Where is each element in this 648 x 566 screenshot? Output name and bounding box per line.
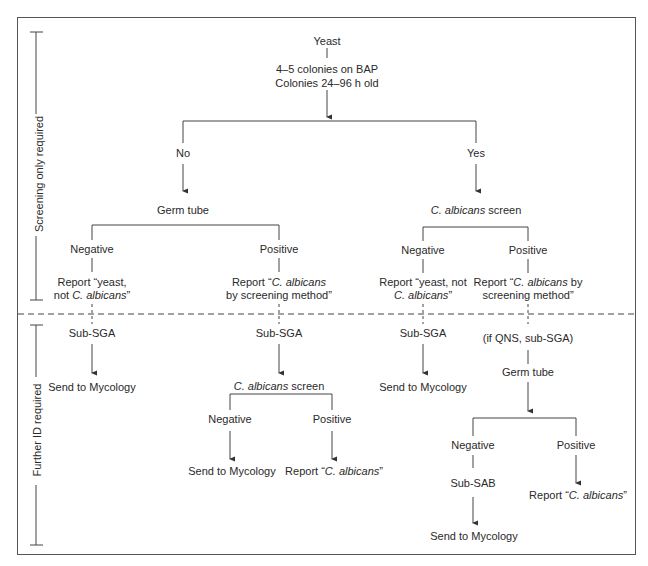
node-gt-positive: Positive: [260, 243, 299, 256]
node-mid-send-mycology: Send to Mycology: [188, 465, 275, 478]
node-ca-screen: C. albicans screen: [431, 204, 522, 217]
report-line-1: Report “C. albicans by: [474, 276, 583, 289]
report-line-1: Report “yeast, not: [379, 276, 466, 289]
node-ca-neg-report: Report “yeast, not C. albicans”: [379, 276, 466, 302]
node-if-qns: (if QNS, sub-SGA): [483, 332, 573, 345]
node-criteria-2: Colonies 24–96 h old: [275, 77, 378, 90]
node-yes: Yes: [467, 147, 485, 160]
node-text: screen: [485, 204, 521, 216]
report-line-2: by screening method”: [226, 289, 332, 302]
node-sub-sab: Sub-SAB: [450, 477, 495, 490]
node-criteria-1: 4–5 colonies on BAP: [276, 63, 378, 76]
node-no: No: [176, 147, 190, 160]
report-line-1: Report “yeast,: [54, 276, 130, 289]
node-mid-negative: Negative: [208, 413, 251, 426]
report-line-2: screening method”: [474, 289, 583, 302]
node-ca-negative: Negative: [401, 244, 444, 257]
node-right-report: Report “C. albicans”: [529, 489, 627, 502]
node-right-send-mycology: Send to Mycology: [430, 530, 517, 543]
node-sub-sga-1: Sub-SGA: [69, 327, 115, 340]
node-mid-ca-screen: C. albicans screen: [234, 380, 325, 393]
node-right-negative: Negative: [451, 439, 494, 452]
node-gt-pos-report: Report “C. albicans by screening method”: [226, 276, 332, 302]
node-sub-sga-3: Sub-SGA: [400, 327, 446, 340]
node-mid-report: Report “C. albicans”: [285, 465, 383, 478]
section-label-screening: Screening only required: [33, 114, 45, 234]
node-germ-tube: Germ tube: [157, 204, 209, 217]
report-line-2: C. albicans”: [379, 289, 466, 302]
node-mid-positive: Positive: [313, 413, 352, 426]
node-right-germ-tube: Germ tube: [502, 366, 554, 379]
node-right-positive: Positive: [557, 439, 596, 452]
species-name: C. albicans: [431, 204, 485, 216]
report-line-1: Report “C. albicans: [226, 276, 332, 289]
node-send-mycology-1: Send to Mycology: [48, 381, 135, 394]
node-yeast: Yeast: [313, 35, 340, 48]
node-ca-pos-report: Report “C. albicans by screening method”: [474, 276, 583, 302]
node-gt-negative: Negative: [70, 243, 113, 256]
node-gt-neg-report: Report “yeast, not C. albicans”: [54, 276, 130, 302]
section-label-further-id: Further ID required: [31, 382, 43, 479]
report-line-2: not C. albicans”: [54, 289, 130, 302]
node-send-mycology-3: Send to Mycology: [379, 381, 466, 394]
node-ca-positive: Positive: [509, 244, 548, 257]
node-sub-sga-2: Sub-SGA: [256, 327, 302, 340]
